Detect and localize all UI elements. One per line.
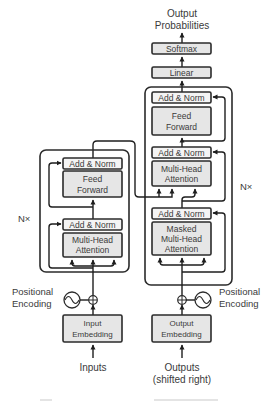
arrow-up-icon: [160, 258, 182, 265]
decoder-ff-addnorm-label: Add & Norm: [158, 93, 204, 103]
decoder-positional-label-line1: Positional: [219, 286, 260, 297]
encoder-attention-block: Multi-Head Attention: [63, 233, 122, 257]
caption-fragment: [154, 399, 218, 401]
encoder-positional-label-line2: Encoding: [12, 298, 52, 309]
input-embedding-label-line2: Embedding: [72, 330, 112, 339]
decoder-repeat-label: N×: [240, 181, 252, 192]
decoder-masked-addnorm-block: Add & Norm: [152, 208, 211, 219]
sine-wave-icon: [64, 292, 80, 308]
outputs-label-line2: (shifted right): [153, 374, 211, 385]
circled-plus-icon: [89, 296, 98, 305]
decoder-query-arrow: [182, 189, 195, 208]
decoder-masked-attention-block: Masked Multi-Head Attention: [152, 222, 211, 255]
decoder-cross-attn-label-line2: Attention: [165, 174, 199, 184]
encoder-ff-label-line1: Feed: [83, 174, 103, 184]
decoder-cross-attn-label-line1: Multi-Head: [161, 164, 202, 174]
output-embedding-label-line2: Embedding: [161, 330, 201, 339]
masked-attn-label-line2: Multi-Head: [161, 234, 202, 244]
encoder-positional-encoding: Positional Encoding: [12, 286, 97, 309]
sine-wave-icon: [195, 292, 211, 308]
masked-attn-label-line1: Masked: [167, 224, 197, 234]
masked-attn-label-line3: Attention: [165, 244, 199, 254]
arrow-up-icon: [93, 260, 114, 266]
output-probabilities-label: Output Probabilities: [155, 8, 209, 31]
decoder-positional-encoding: Positional Encoding: [178, 286, 261, 309]
input-embedding-block: Input Embedding: [63, 315, 122, 342]
inputs-label: Inputs: [79, 362, 106, 373]
decoder-masked-addnorm-label: Add & Norm: [158, 209, 204, 219]
encoder-attn-label-line1: Multi-Head: [72, 235, 113, 245]
decoder-cross-addnorm-label: Add & Norm: [158, 148, 204, 158]
caption-fragment: [40, 399, 52, 401]
encoder-attn-addnorm-block: Add & Norm: [63, 219, 122, 230]
input-embedding-label-line1: Input: [84, 319, 103, 328]
decoder-ff-addnorm-block: Add & Norm: [152, 92, 211, 103]
transformer-diagram: Output Probabilities Softmax Linear N× A…: [0, 0, 272, 402]
encoder-repeat-label: N×: [18, 213, 30, 224]
decoder-feed-forward-block: Feed Forward: [152, 107, 211, 135]
decoder-ff-label-line1: Feed: [172, 111, 192, 121]
circled-plus-icon: [178, 296, 187, 305]
softmax-label: Softmax: [166, 44, 198, 54]
encoder-attn-label-line2: Attention: [76, 245, 110, 255]
output-label-line1: Output: [167, 8, 197, 19]
output-embedding-label-line1: Output: [169, 319, 194, 328]
encoder-attn-addnorm-label: Add & Norm: [69, 220, 115, 230]
decoder-positional-label-line2: Encoding: [219, 298, 259, 309]
decoder-cross-addnorm-block: Add & Norm: [152, 147, 211, 158]
linear-block: Linear: [152, 67, 211, 78]
decoder-ff-label-line2: Forward: [166, 122, 197, 132]
encoder-ff-addnorm-label: Add & Norm: [69, 159, 115, 169]
encoder-ff-label-line2: Forward: [77, 185, 108, 195]
encoder-feed-forward-block: Feed Forward: [63, 171, 122, 197]
output-embedding-block: Output Embedding: [152, 315, 211, 342]
output-label-line2: Probabilities: [155, 20, 209, 31]
decoder-cross-attention-block: Multi-Head Attention: [152, 161, 211, 186]
linear-label: Linear: [170, 68, 194, 78]
arrow-up-icon: [182, 258, 204, 265]
outputs-label-line1: Outputs: [164, 362, 199, 373]
softmax-block: Softmax: [152, 43, 211, 54]
encoder-positional-label-line1: Positional: [12, 286, 53, 297]
arrow-up-icon: [72, 260, 93, 266]
encoder-ff-addnorm-block: Add & Norm: [63, 158, 122, 169]
